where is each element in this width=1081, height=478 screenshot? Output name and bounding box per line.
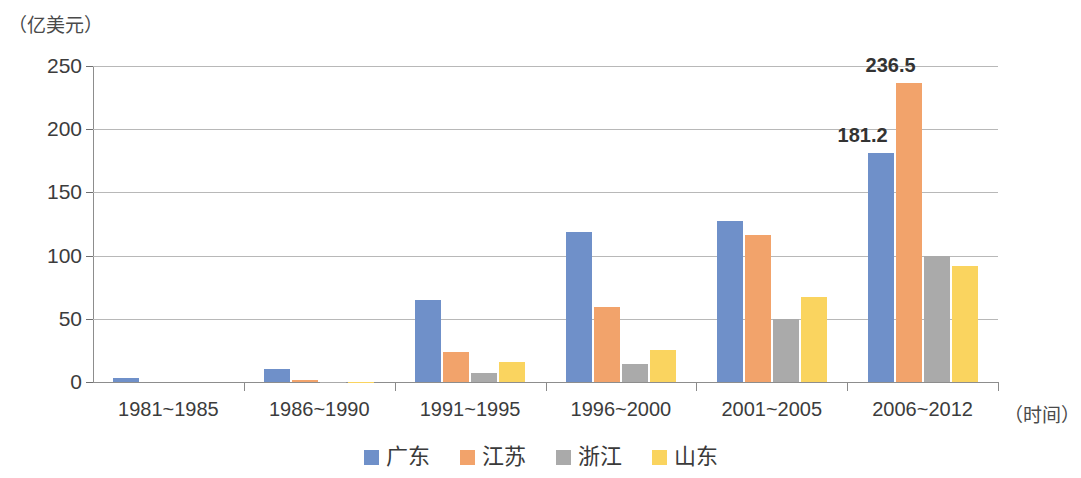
- bar[interactable]: [801, 297, 827, 382]
- x-axis-tick-label: 1981~1985: [118, 398, 219, 421]
- bar[interactable]: [717, 221, 743, 382]
- x-axis-major-tick: [998, 383, 999, 391]
- legend-label: 广东: [386, 446, 430, 468]
- bar[interactable]: [264, 369, 290, 382]
- bar-group: [244, 66, 395, 382]
- bar-group: [395, 66, 546, 382]
- legend-label: 浙江: [578, 446, 622, 468]
- bar-value-label: 236.5: [866, 54, 916, 77]
- legend-label: 山东: [674, 446, 718, 468]
- bar-group: [847, 66, 998, 382]
- chart-legend: 广东江苏浙江山东: [0, 446, 1081, 468]
- x-axis-tick-label: 2006~2012: [872, 398, 973, 421]
- plot-area: 236.5181.2: [93, 66, 998, 382]
- y-axis-tick-label: 100: [12, 244, 82, 268]
- x-axis-major-tick: [847, 383, 848, 391]
- y-axis-tick: [86, 129, 93, 130]
- x-axis-unit-label: （时间）: [1004, 400, 1080, 427]
- bar-group: [546, 66, 697, 382]
- legend-swatch-icon: [652, 450, 667, 465]
- bar[interactable]: [773, 319, 799, 382]
- bar[interactable]: [566, 232, 592, 382]
- y-axis-tick: [86, 319, 93, 320]
- x-axis-major-tick: [395, 383, 396, 391]
- x-axis-major-tick: [546, 383, 547, 391]
- bar[interactable]: [113, 378, 139, 382]
- x-axis-major-tick: [696, 383, 697, 391]
- y-axis-tick: [86, 256, 93, 257]
- bar[interactable]: [896, 83, 922, 382]
- bar-value-label: 181.2: [838, 124, 888, 147]
- bar[interactable]: [594, 307, 620, 382]
- bar[interactable]: [471, 373, 497, 382]
- bar[interactable]: [499, 362, 525, 382]
- bar[interactable]: [924, 256, 950, 382]
- x-axis-tick-label: 1996~2000: [571, 398, 672, 421]
- legend-item-2[interactable]: 浙江: [556, 446, 622, 468]
- bar[interactable]: [745, 235, 771, 382]
- bar[interactable]: [415, 300, 441, 382]
- y-axis-tick-label: 50: [12, 307, 82, 331]
- legend-swatch-icon: [460, 450, 475, 465]
- bar[interactable]: [622, 364, 648, 382]
- legend-swatch-icon: [364, 450, 379, 465]
- bar[interactable]: [868, 153, 894, 382]
- bar[interactable]: [952, 266, 978, 382]
- y-axis-tick: [86, 382, 93, 383]
- bar-group: [93, 66, 244, 382]
- bar[interactable]: [292, 380, 318, 382]
- y-axis-tick-label: 250: [12, 54, 82, 78]
- bar-group: [696, 66, 847, 382]
- x-axis-major-tick: [244, 383, 245, 391]
- legend-swatch-icon: [556, 450, 571, 465]
- y-axis-tick-label: 200: [12, 117, 82, 141]
- x-axis-tick-label: 1991~1995: [420, 398, 521, 421]
- legend-item-0[interactable]: 广东: [364, 446, 430, 468]
- bar-chart: （亿美元） 236.5181.2 050100150200250 1981~19…: [0, 0, 1081, 478]
- y-axis-unit-label: （亿美元）: [8, 10, 103, 37]
- x-axis-tick-label: 2001~2005: [721, 398, 822, 421]
- legend-item-1[interactable]: 江苏: [460, 446, 526, 468]
- y-axis-tick-label: 150: [12, 180, 82, 204]
- y-axis-tick-label: 0: [12, 370, 82, 394]
- bar[interactable]: [650, 350, 676, 382]
- y-axis-tick: [86, 192, 93, 193]
- bar[interactable]: [443, 352, 469, 382]
- legend-item-3[interactable]: 山东: [652, 446, 718, 468]
- legend-label: 江苏: [482, 446, 526, 468]
- x-axis-tick-label: 1986~1990: [269, 398, 370, 421]
- y-axis-tick: [86, 66, 93, 67]
